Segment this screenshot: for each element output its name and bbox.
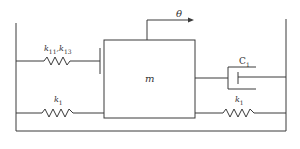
mass-label: m: [145, 74, 154, 84]
spring-k1-right-label: k1: [235, 96, 244, 106]
spring-k1-left-label: k1: [54, 96, 63, 106]
spring-k11-k13-label: k11,k13: [44, 45, 72, 55]
rotation-arrow: [147, 20, 190, 40]
damper-label: C1: [239, 57, 250, 68]
damper-cylinder: [228, 67, 256, 89]
spring-k11-k13: [44, 57, 70, 65]
arrowhead-icon: [188, 18, 194, 23]
rotation-label: θ: [176, 9, 182, 19]
spring-k1-right: [223, 109, 254, 117]
spring-k1-left: [42, 109, 73, 117]
